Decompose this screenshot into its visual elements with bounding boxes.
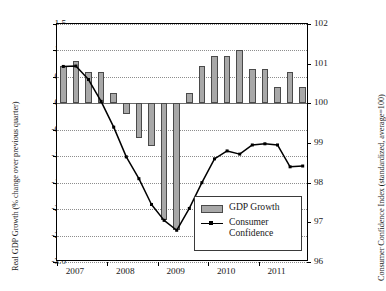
y-tick-label-right: 99: [314, 137, 348, 147]
line-marker: [251, 143, 254, 146]
legend-label-cc-line2: Confidence: [229, 227, 273, 238]
line-marker: [238, 153, 241, 156]
line-marker: [87, 78, 90, 81]
line-marker: [188, 207, 191, 210]
plot-area: GDP Growth ConsumerConfidence: [56, 23, 308, 261]
line-marker: [125, 155, 128, 158]
gridline: [57, 262, 307, 263]
chart-legend: GDP Growth ConsumerConfidence: [194, 196, 302, 251]
line-marker: [301, 165, 304, 168]
line-marker: [200, 181, 203, 184]
x-tick-label: 2011: [254, 266, 300, 276]
x-tick: [107, 262, 108, 266]
legend-line-marker-icon: [201, 219, 223, 228]
y-tick-label-right: 100: [314, 97, 348, 107]
x-tick: [259, 262, 260, 266]
y-axis-right-title: Consumer Confidence Index (standardized,…: [377, 94, 386, 281]
line-marker: [175, 229, 178, 232]
line-marker: [276, 143, 279, 146]
y-tick-label-right: 102: [314, 18, 348, 28]
x-tick: [158, 262, 159, 266]
x-tick: [208, 262, 209, 266]
line-marker: [62, 65, 65, 68]
line-marker: [226, 149, 229, 152]
legend-bar-swatch-icon: [201, 205, 223, 213]
line-marker: [137, 177, 140, 180]
y-tick-label-right: 101: [314, 58, 348, 68]
y-tick-label-right: 98: [314, 177, 348, 187]
legend-item-gdp-growth: GDP Growth: [201, 202, 295, 213]
legend-label-cc-line1: Consumer: [229, 216, 268, 227]
line-marker: [150, 203, 153, 206]
line-marker: [163, 219, 166, 222]
y-tick-right: [307, 262, 311, 263]
line-marker: [100, 100, 103, 103]
x-tick-label: 2009: [153, 266, 199, 276]
legend-label-gdp-growth: GDP Growth: [229, 202, 280, 213]
x-tick-label: 2010: [203, 266, 249, 276]
line-marker: [74, 65, 77, 68]
y-tick-label-right: 96: [314, 256, 348, 266]
legend-item-consumer-confidence: ConsumerConfidence: [201, 217, 295, 238]
x-tick-label: 2008: [102, 266, 148, 276]
y-axis-left-title: Real GDP Growth (% change over previous …: [11, 102, 20, 271]
line-marker: [289, 165, 292, 168]
x-tick-label: 2007: [52, 266, 98, 276]
line-marker: [263, 142, 266, 145]
y-tick-label-right: 97: [314, 216, 348, 226]
x-tick: [57, 262, 58, 266]
line-marker: [213, 157, 216, 160]
legend-label-consumer-confidence: ConsumerConfidence: [229, 217, 273, 238]
line-marker: [112, 126, 115, 129]
